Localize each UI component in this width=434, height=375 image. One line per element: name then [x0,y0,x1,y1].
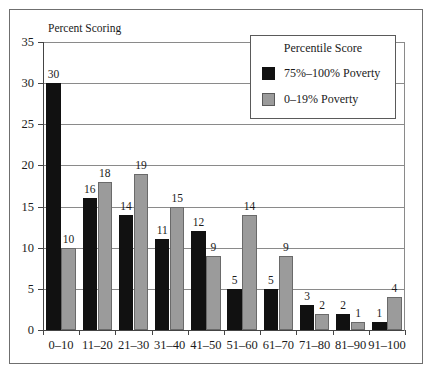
bar [315,314,330,330]
legend-title: Percentile Score [251,41,395,56]
x-tick-label: 71–80 [299,338,330,353]
bar [242,215,257,330]
bar [387,297,402,330]
legend-label-light: 0–19% Poverty [284,92,358,107]
chart-page: Percent Scoring 05101520253035 301016181… [0,0,434,375]
bar-value-label: 11 [157,224,168,236]
bar-value-label: 30 [48,68,60,80]
y-tick-label: 10 [12,240,34,255]
x-tick-mark [115,330,116,335]
x-tick-label: 61–70 [263,338,294,353]
bar [351,322,366,330]
x-tick-mark [260,330,261,335]
x-tick-mark [43,330,44,335]
bar-value-label: 9 [211,241,217,253]
bar [372,322,387,330]
y-tick-label: 20 [12,158,34,173]
bar-value-label: 14 [120,200,132,212]
legend: Percentile Score 75%–100% Poverty 0–19% … [250,35,396,119]
y-axis-title: Percent Scoring [48,22,121,34]
bar [279,256,294,330]
bar-value-label: 16 [84,183,96,195]
y-axis-line [43,42,44,331]
bar [170,207,185,330]
bar [155,239,170,330]
bar-value-label: 3 [304,290,310,302]
legend-item-dark: 75%–100% Poverty [262,66,380,81]
x-tick-mark [224,330,225,335]
bar-value-label: 10 [63,233,75,245]
bar-value-label: 5 [268,274,274,286]
x-tick-mark [79,330,80,335]
bar [300,305,315,330]
bar-value-label: 4 [392,282,398,294]
legend-label-dark: 75%–100% Poverty [284,66,380,81]
x-tick-mark [152,330,153,335]
plot-right-edge [404,42,405,331]
x-tick-label: 0–10 [49,338,74,353]
bar [206,256,221,330]
legend-swatch-light-icon [262,93,275,106]
x-tick-label: 41–50 [190,338,221,353]
x-tick-mark [296,330,297,335]
bar [83,198,98,330]
x-tick-mark [333,330,334,335]
x-tick-label: 51–60 [226,338,257,353]
y-tick-label: 30 [12,76,34,91]
bar-value-label: 1 [377,307,383,319]
x-tick-label: 31–40 [154,338,185,353]
y-tick-label: 35 [12,35,34,50]
x-tick-label: 81–90 [335,338,366,353]
bar [61,248,76,330]
gridline [43,165,405,166]
bar [227,289,242,330]
x-tick-label: 21–30 [118,338,149,353]
bar-value-label: 1 [355,307,361,319]
gridline [43,124,405,125]
bar [119,215,134,330]
bar [191,231,206,330]
legend-item-light: 0–19% Poverty [262,92,358,107]
bar-value-label: 18 [99,167,111,179]
bar [134,174,149,330]
bar-value-label: 9 [283,241,289,253]
bar [264,289,279,330]
bar-value-label: 19 [135,159,147,171]
y-tick-label: 5 [12,281,34,296]
bar-value-label: 15 [171,192,183,204]
y-tick-label: 25 [12,117,34,132]
bar-value-label: 12 [193,216,205,228]
bar-value-label: 2 [319,299,325,311]
legend-swatch-dark-icon [262,67,275,80]
y-tick-label: 0 [12,323,34,338]
x-tick-mark [188,330,189,335]
x-tick-label: 91–100 [368,338,406,353]
x-tick-mark [369,330,370,335]
y-tick-label: 15 [12,199,34,214]
x-tick-mark [405,330,406,335]
bar [98,182,113,330]
bar-value-label: 5 [232,274,238,286]
x-tick-label: 11–20 [82,338,113,353]
bar-value-label: 14 [244,200,256,212]
bar [336,314,351,330]
bar [46,83,61,330]
bar-value-label: 2 [340,299,346,311]
